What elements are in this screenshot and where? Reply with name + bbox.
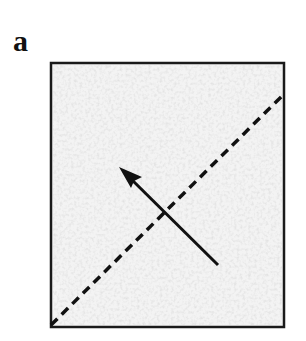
box-texture	[53, 65, 282, 325]
diagram-canvas	[0, 0, 306, 341]
